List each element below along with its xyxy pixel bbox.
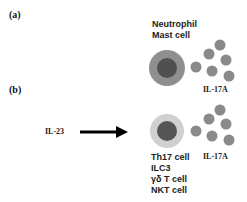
stimulus-label: IL-23	[45, 127, 64, 136]
il17a-dots-b-icon	[191, 105, 235, 146]
il17a-dots-a-icon	[191, 40, 235, 82]
arrow-icon	[80, 126, 128, 138]
diagram-graphics	[0, 0, 247, 202]
panel-a-label: (a)	[9, 9, 21, 20]
cell-label: Neutrophil	[152, 19, 197, 30]
cell-label: NKT cell	[151, 185, 190, 196]
panel-b-cytokine-label: IL-17A	[203, 152, 228, 161]
panel-a-cell-labels: Neutrophil Mast cell	[152, 19, 197, 41]
neutrophil-mast-cell-icon	[149, 50, 185, 86]
cell-label: ILC3	[151, 163, 190, 174]
cell-label: Mast cell	[152, 30, 197, 41]
panel-a-cytokine-label: IL-17A	[203, 85, 228, 94]
th17-cell-icon	[150, 114, 184, 148]
cell-label: Th17 cell	[151, 152, 190, 163]
panel-b-label: (b)	[9, 84, 21, 95]
panel-b-cell-labels: Th17 cell ILC3 γδ T cell NKT cell	[151, 152, 190, 196]
cell-label: γδ T cell	[151, 174, 190, 185]
